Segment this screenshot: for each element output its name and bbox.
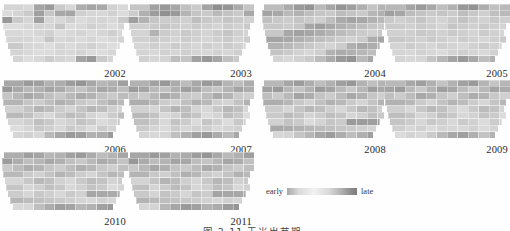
county-choropleth-map: [128, 80, 254, 138]
map-canvas-2005: [384, 4, 510, 62]
year-label-2008: 2008: [364, 144, 386, 155]
map-panel-2008: 2008: [262, 80, 388, 152]
county-choropleth-map: [262, 4, 388, 62]
map-canvas-2008: [262, 80, 388, 138]
county-choropleth-map: [262, 80, 388, 138]
year-label-2003: 2003: [230, 68, 252, 79]
figure-caption-text: 图 2-11 玉米出苗期: [203, 227, 303, 231]
map-panel-2010: 2010: [2, 152, 128, 224]
legend-gradient-bar: [287, 188, 357, 195]
year-label-2009: 2009: [486, 144, 508, 155]
county-choropleth-map: [384, 4, 510, 62]
year-label-2004: 2004: [364, 68, 386, 79]
map-canvas-2006: [2, 80, 128, 138]
map-panel-2006: 2006: [2, 80, 128, 152]
map-canvas-2007: [128, 80, 254, 138]
year-label-2002: 2002: [104, 68, 126, 79]
county-choropleth-map: [2, 80, 128, 138]
map-panel-2011: 2011: [128, 152, 254, 224]
map-panel-2007: 2007: [128, 80, 254, 152]
map-canvas-2003: [128, 4, 254, 62]
county-choropleth-map: [2, 152, 128, 210]
map-canvas-2009: [384, 80, 510, 138]
year-label-2005: 2005: [486, 68, 508, 79]
map-canvas-2011: [128, 152, 254, 210]
county-choropleth-map: [2, 4, 128, 62]
legend-low-label: early: [266, 187, 283, 196]
map-canvas-2002: [2, 4, 128, 62]
map-panel-2003: 2003: [128, 4, 254, 76]
map-canvas-2010: [2, 152, 128, 210]
figure-caption: 图 2-11 玉米出苗期: [0, 222, 505, 231]
map-panel-2002: 2002: [2, 4, 128, 76]
map-panel-2005: 2005: [384, 4, 510, 76]
legend-high-label: late: [361, 187, 373, 196]
map-canvas-2004: [262, 4, 388, 62]
county-choropleth-map: [384, 80, 510, 138]
map-panel-2004: 2004: [262, 4, 388, 76]
county-choropleth-map: [128, 4, 254, 62]
map-panel-2009: 2009: [384, 80, 510, 152]
color-legend: early late: [266, 184, 373, 198]
county-choropleth-map: [128, 152, 254, 210]
